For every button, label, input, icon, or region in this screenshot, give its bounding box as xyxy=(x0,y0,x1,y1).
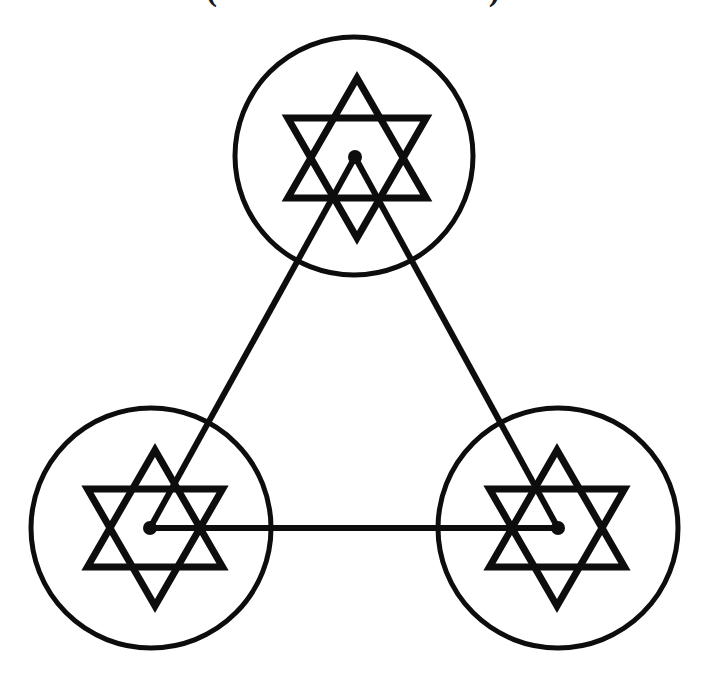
hexagram-downward-triangle-top xyxy=(288,118,427,238)
hexagram-downward-triangle-bottom-right xyxy=(489,489,624,606)
hexagram-upward-triangle-bottom-right xyxy=(489,450,624,567)
nodes-layer xyxy=(31,37,678,648)
hexagram-upward-triangle-top xyxy=(288,78,427,198)
hexagram-triangle-diagram xyxy=(0,0,709,690)
hexagram-downward-triangle-bottom-left xyxy=(87,489,222,606)
edges-layer xyxy=(150,157,558,528)
connector-edge-top-left xyxy=(150,157,355,528)
hexagram-upward-triangle-bottom-left xyxy=(87,450,222,567)
center-dot-bottom-left xyxy=(143,521,157,535)
center-dot-bottom-right xyxy=(551,521,565,535)
center-dot-top xyxy=(348,150,362,164)
figure-root: (PLATE XXXIII) xyxy=(0,0,709,690)
node-top xyxy=(235,37,473,275)
